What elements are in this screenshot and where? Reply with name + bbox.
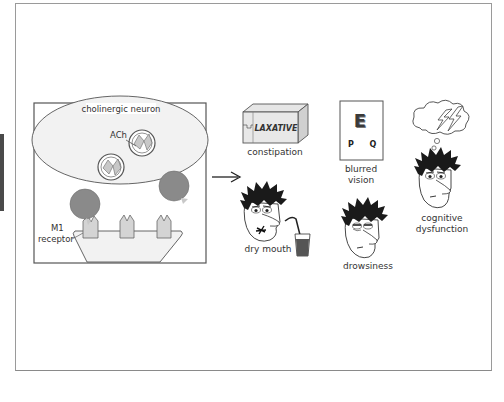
blurred-label: blurred xyxy=(345,164,377,174)
dysfunction-label: dysfunction xyxy=(416,224,469,234)
drowsiness-label: drowsiness xyxy=(343,261,393,271)
vesicle-icon xyxy=(98,154,124,180)
constipation-label: constipation xyxy=(247,147,302,157)
mechanism-panel: cholinergic neuron ACh xyxy=(32,96,208,263)
effect-cognitive-dysfunction: cognitive dysfunction xyxy=(413,100,469,234)
vision-label: vision xyxy=(348,175,374,185)
arrow-icon xyxy=(212,172,240,182)
effect-dry-mouth: dry mouth xyxy=(240,181,310,256)
dry-mouth-label: dry mouth xyxy=(245,244,292,254)
eye-chart-icon: E E P Q xyxy=(340,101,383,160)
vesicle-icon xyxy=(129,130,155,156)
effect-drowsiness: drowsiness xyxy=(341,197,393,271)
m1-label: M1 xyxy=(51,223,64,233)
effect-blurred-vision: E E P Q blurred vision xyxy=(340,101,383,185)
svg-text:E: E xyxy=(354,110,366,131)
diagram-canvas: cholinergic neuron ACh xyxy=(0,0,504,402)
cognitive-face-icon xyxy=(414,147,461,208)
receptor-label: receptor xyxy=(38,234,74,244)
neuron-label: cholinergic neuron xyxy=(82,104,161,114)
laxative-text: LAXATIVE xyxy=(255,124,299,133)
cognitive-label: cognitive xyxy=(421,213,463,223)
laxative-box-icon: LAXATIVE xyxy=(243,104,308,143)
drowsy-face-icon xyxy=(341,197,388,258)
svg-text:Q: Q xyxy=(370,140,377,149)
effect-constipation: LAXATIVE constipation xyxy=(243,104,308,157)
dry-mouth-face-icon xyxy=(240,181,287,241)
svg-text:P: P xyxy=(348,140,354,149)
ach-label: ACh xyxy=(110,130,127,140)
